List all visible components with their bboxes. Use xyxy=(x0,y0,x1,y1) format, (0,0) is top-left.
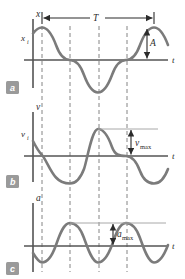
panel-badge-b-label: b xyxy=(10,177,16,187)
velocity-max-subscript: max xyxy=(140,143,152,150)
shm-diagram-canvas: x t x i T A xyxy=(0,0,185,279)
acceleration-y-axis-label: a xyxy=(36,193,41,203)
position-y-axis-label: x xyxy=(35,9,41,19)
velocity-t-axis-label: t xyxy=(172,151,175,161)
position-initial-value-label: x i xyxy=(20,33,29,45)
period-label: T xyxy=(93,13,99,23)
panel-badge-a-label: a xyxy=(10,83,15,93)
velocity-initial-value-subscript: i xyxy=(27,135,29,141)
acceleration-curve xyxy=(33,223,168,263)
amplitude-measurement: A xyxy=(147,29,156,59)
velocity-initial-value-symbol: v xyxy=(21,129,25,139)
panel-velocity: v t v i v max b xyxy=(6,102,175,188)
panel-position: x t x i T A xyxy=(6,9,175,94)
position-t-axis-label: t xyxy=(172,55,175,65)
velocity-initial-value-label: v i xyxy=(21,129,29,141)
position-initial-value-subscript: i xyxy=(27,39,29,45)
acceleration-max-subscript: max xyxy=(122,234,134,241)
panel-badge-b: b xyxy=(6,175,19,188)
period-measurement: T xyxy=(42,10,154,25)
shm-figure: x t x i T A xyxy=(0,0,185,279)
velocity-y-axis-label: v xyxy=(36,102,41,112)
position-initial-value-symbol: x xyxy=(20,33,25,43)
amplitude-label: A xyxy=(149,38,156,48)
velocity-max-measurement: v max xyxy=(98,129,158,155)
acceleration-t-axis-label: t xyxy=(172,241,175,251)
panel-badge-c: c xyxy=(6,262,19,275)
panel-badge-c-label: c xyxy=(10,264,15,274)
panel-acceleration: a t a max c xyxy=(6,193,175,275)
panel-badge-a: a xyxy=(6,81,19,94)
